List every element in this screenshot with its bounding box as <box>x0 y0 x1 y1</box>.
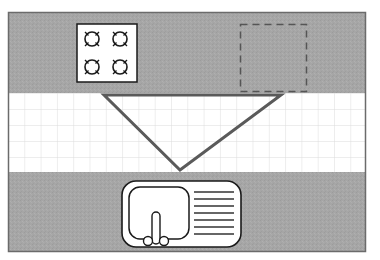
faucet-icon <box>152 212 160 244</box>
kitchen-plan-svg <box>0 0 380 260</box>
tap-handle-icon <box>144 237 153 246</box>
sink-icon <box>122 181 241 247</box>
drainer-lines <box>194 192 234 234</box>
floor-grid <box>8 93 366 172</box>
kitchen-plan <box>0 0 380 260</box>
tap-handle-icon <box>160 237 169 246</box>
stove-icon <box>77 24 137 82</box>
top-counter <box>8 12 366 93</box>
